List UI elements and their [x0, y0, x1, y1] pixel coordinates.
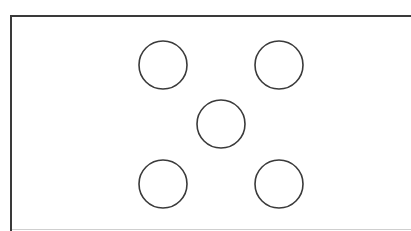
- circle-bottom-left: [139, 160, 187, 208]
- circle-top-left: [139, 41, 187, 89]
- circle-center: [197, 100, 245, 148]
- circle-top-right: [255, 41, 303, 89]
- circles-canvas: [0, 0, 411, 231]
- circle-bottom-right: [255, 160, 303, 208]
